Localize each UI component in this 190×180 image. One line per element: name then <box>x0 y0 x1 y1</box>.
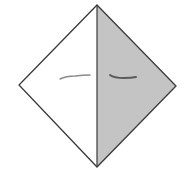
origami-diagram <box>0 0 190 180</box>
right-face-shaded <box>97 5 176 167</box>
left-face-white <box>19 5 97 167</box>
diagram-svg <box>0 0 190 180</box>
